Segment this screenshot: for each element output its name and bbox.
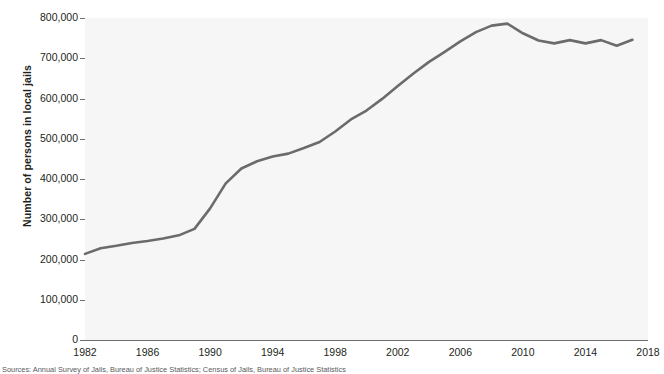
x-axis-line bbox=[85, 340, 648, 341]
y-axis-tick-label: 100,000 bbox=[6, 293, 78, 305]
x-axis-tick-label: 2010 bbox=[493, 346, 553, 358]
y-axis-tick-label: 600,000 bbox=[6, 92, 78, 104]
x-axis-tick-label: 2006 bbox=[430, 346, 490, 358]
y-axis-tick-label: 800,000 bbox=[6, 11, 78, 23]
x-axis-tick-label: 2018 bbox=[618, 346, 664, 358]
line-series-persons-in-local-jails bbox=[85, 24, 632, 254]
series-canvas bbox=[85, 18, 648, 340]
plot-area bbox=[85, 18, 648, 340]
x-axis-tick-label: 1982 bbox=[55, 346, 115, 358]
x-axis-tick-label: 2002 bbox=[368, 346, 428, 358]
x-axis-tick-label: 1986 bbox=[118, 346, 178, 358]
x-axis-tick-label: 2014 bbox=[555, 346, 615, 358]
y-axis-tick-label: 300,000 bbox=[6, 212, 78, 224]
x-axis-tick-label: 1994 bbox=[243, 346, 303, 358]
y-axis-tick-label: 400,000 bbox=[6, 172, 78, 184]
y-axis-tick-label: 200,000 bbox=[6, 253, 78, 265]
x-axis-tick-label: 1998 bbox=[305, 346, 365, 358]
y-axis-tick-label: 500,000 bbox=[6, 132, 78, 144]
x-axis-tick-label: 1990 bbox=[180, 346, 240, 358]
y-axis-tick-label: 700,000 bbox=[6, 51, 78, 63]
source-caption: Sources: Annual Survey of Jails, Bureau … bbox=[2, 365, 658, 374]
y-axis-tick-label: 0 bbox=[6, 333, 78, 345]
